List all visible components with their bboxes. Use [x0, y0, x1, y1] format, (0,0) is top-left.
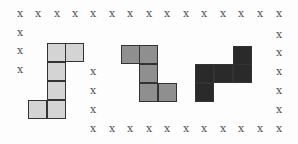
x-mark: x	[14, 27, 26, 39]
x-mark: x	[180, 8, 192, 20]
x-mark: x	[143, 123, 155, 135]
diagram-canvas: xxxxxxxxxxxxxxxxxxxxxxxxxxxxxxxxxxxxx	[0, 0, 298, 144]
shape-cell	[47, 81, 66, 100]
x-mark: x	[235, 8, 247, 20]
shape-cell	[47, 62, 66, 81]
shape-cell	[158, 83, 177, 102]
x-mark: x	[273, 8, 285, 20]
x-mark: x	[32, 8, 44, 20]
shape-cell	[233, 46, 252, 65]
x-mark: x	[87, 85, 99, 97]
x-mark: x	[87, 66, 99, 78]
shape-cell	[139, 83, 158, 102]
x-mark: x	[69, 8, 81, 20]
shape-cell	[195, 64, 214, 83]
shape-cell	[47, 100, 66, 119]
x-mark: x	[14, 45, 26, 57]
x-mark: x	[217, 8, 229, 20]
x-mark: x	[273, 104, 285, 116]
x-mark: x	[124, 8, 136, 20]
x-mark: x	[87, 8, 99, 20]
shape-cell	[139, 64, 158, 83]
shape-cell	[121, 45, 140, 64]
shape-cell	[233, 64, 252, 83]
x-mark: x	[198, 123, 210, 135]
x-mark: x	[161, 123, 173, 135]
x-mark: x	[180, 123, 192, 135]
x-mark: x	[273, 123, 285, 135]
x-mark: x	[273, 66, 285, 78]
shape-cell	[28, 100, 47, 119]
x-mark: x	[124, 123, 136, 135]
shape-cell	[65, 43, 84, 62]
x-mark: x	[87, 123, 99, 135]
x-mark: x	[161, 8, 173, 20]
x-mark: x	[106, 123, 118, 135]
x-mark: x	[217, 123, 229, 135]
x-mark: x	[273, 85, 285, 97]
x-mark: x	[14, 8, 26, 20]
x-mark: x	[14, 64, 26, 76]
x-mark: x	[273, 47, 285, 59]
shape-cell	[195, 83, 214, 102]
x-mark: x	[254, 8, 266, 20]
x-mark: x	[143, 8, 155, 20]
x-mark: x	[235, 123, 247, 135]
x-mark: x	[51, 8, 63, 20]
x-mark: x	[198, 8, 210, 20]
x-mark: x	[87, 104, 99, 116]
x-mark: x	[106, 8, 118, 20]
shape-cell	[139, 45, 158, 64]
shape-cell	[47, 43, 66, 62]
shape-cell	[214, 64, 233, 83]
x-mark: x	[273, 29, 285, 41]
x-mark: x	[254, 123, 266, 135]
